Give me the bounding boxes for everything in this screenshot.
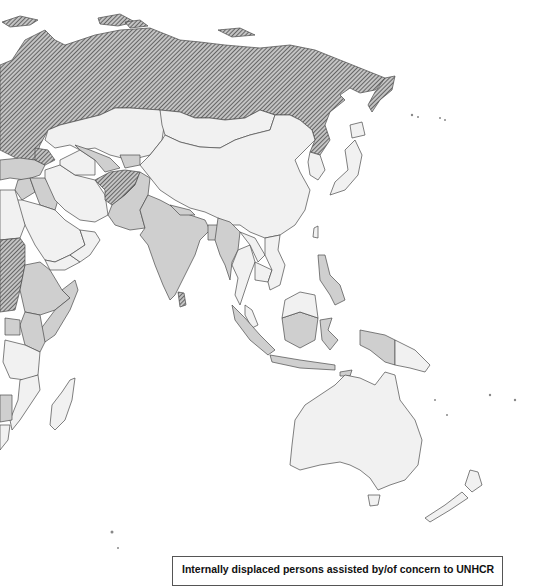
country-indonesia-java <box>270 355 335 370</box>
island <box>411 114 413 116</box>
country-vietnam <box>265 235 285 290</box>
island <box>514 399 516 401</box>
country-japan-hokkaido <box>350 122 365 138</box>
island <box>434 399 436 401</box>
country-sri-lanka <box>178 292 186 307</box>
country-philippines <box>318 255 345 305</box>
country-indonesia-papua <box>360 330 395 365</box>
legend: Internally displaced persons assisted by… <box>172 556 503 586</box>
island <box>489 394 491 396</box>
arctic-island <box>2 16 38 27</box>
country-mozambique <box>10 375 40 430</box>
country-sudan <box>0 238 25 312</box>
country-australia-tasmania <box>368 495 380 506</box>
country-indonesia-sulawesi <box>320 318 338 350</box>
country-papua-new-guinea <box>395 340 430 372</box>
island <box>417 116 419 118</box>
country-new-zealand-south <box>425 492 468 522</box>
country-new-zealand-north <box>465 470 482 492</box>
island <box>111 531 114 534</box>
country-madagascar <box>50 378 75 430</box>
country-kyrgyzstan <box>120 155 140 168</box>
country-korea <box>308 152 325 180</box>
country-taiwan <box>313 226 318 238</box>
island <box>444 119 446 121</box>
country-indonesia-sumatra <box>232 305 275 355</box>
country-uganda <box>5 318 20 335</box>
island <box>446 414 448 416</box>
arctic-island <box>125 20 148 28</box>
country-zimbabwe <box>0 395 12 422</box>
island <box>117 547 119 549</box>
country-indonesia-borneo <box>282 312 318 348</box>
legend-title: Internally displaced persons assisted by… <box>182 563 494 575</box>
country-australia <box>290 372 422 490</box>
country-south-africa <box>0 425 10 450</box>
arctic-island <box>218 28 255 37</box>
country-japan <box>330 140 362 195</box>
island <box>439 117 441 119</box>
